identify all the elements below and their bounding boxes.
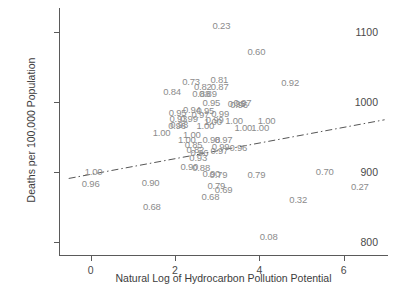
data-point-label: 0.32 — [289, 193, 307, 204]
scatter-plot-figure: 80090010001100 0246 0.230.600.730.810.82… — [0, 0, 397, 293]
data-point-label: 0.79 — [210, 168, 228, 179]
data-point-label: 0.84 — [163, 86, 181, 97]
data-point-label: 0.90 — [142, 176, 160, 187]
data-point-label: 0.70 — [316, 166, 334, 177]
x-tick-mark — [344, 256, 345, 261]
x-tick-mark — [259, 256, 260, 261]
x-tick-mark — [91, 256, 92, 261]
x-axis-title: Natural Log of Hydrocarbon Pollution Pot… — [59, 272, 388, 284]
data-point-label: 0.92 — [281, 77, 299, 88]
y-axis-title: Deaths per 100,000 Population — [25, 15, 37, 245]
data-point-label: 0.23 — [213, 20, 231, 31]
data-point-label: 0.96 — [229, 142, 247, 153]
data-point-label: 0.97 — [210, 144, 228, 155]
data-point-label: 1.00 — [85, 165, 103, 176]
data-point-label: 1.00 — [251, 121, 269, 132]
regression-trend-line — [59, 8, 388, 256]
data-point-label: 1.00 — [234, 121, 252, 132]
data-point-label: 0.68 — [143, 200, 161, 211]
data-point-label: 0.27 — [351, 181, 369, 192]
x-tick-mark — [175, 256, 176, 261]
data-point-label: 0.68 — [202, 190, 220, 201]
data-point-label: 0.08 — [260, 230, 278, 241]
plot-area: 80090010001100 0246 0.230.600.730.810.82… — [59, 8, 388, 256]
data-point-label: 1.00 — [153, 127, 171, 138]
data-point-label: 0.60 — [248, 45, 266, 56]
data-point-label: 0.96 — [230, 98, 248, 109]
data-point-label: 0.79 — [248, 169, 266, 180]
data-point-label: 0.96 — [82, 177, 100, 188]
